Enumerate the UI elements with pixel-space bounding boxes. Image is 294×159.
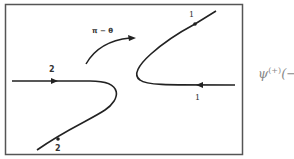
incoming-arrow-icon bbox=[196, 82, 203, 88]
trajectory-2-marker bbox=[56, 137, 60, 141]
psi-expression: ψ(+)(− bbox=[258, 66, 294, 81]
psi-superscript: (+) bbox=[268, 66, 281, 75]
psi-symbol: ψ bbox=[258, 66, 268, 81]
trajectory-2-curve bbox=[12, 81, 116, 150]
diagram: π − θ 1 1 2 2 bbox=[0, 0, 294, 159]
trajectory-1-marker bbox=[193, 22, 197, 26]
label-upper-right: 1 bbox=[189, 10, 194, 19]
psi-suffix: (− bbox=[281, 66, 294, 81]
angle-arrow-icon bbox=[128, 35, 136, 41]
label-lower-left: 2 bbox=[55, 144, 61, 153]
angle-label: π − θ bbox=[92, 27, 113, 35]
angle-arc bbox=[86, 38, 130, 64]
label-lower-right: 1 bbox=[195, 93, 200, 102]
trajectory-1-curve bbox=[137, 11, 235, 85]
incoming-arrow-icon bbox=[51, 78, 58, 84]
frame bbox=[6, 5, 243, 155]
label-upper-left: 2 bbox=[49, 65, 55, 74]
